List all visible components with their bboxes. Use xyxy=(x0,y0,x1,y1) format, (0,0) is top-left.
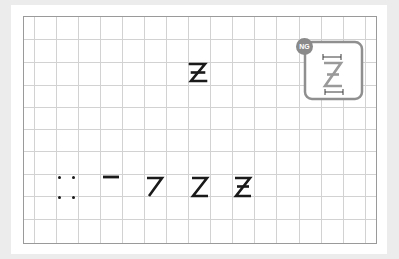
model-glyph-crossed-z xyxy=(190,64,206,81)
ng-example xyxy=(305,42,362,99)
handwriting-grid xyxy=(0,0,399,259)
stroke-step-1-dots xyxy=(58,176,75,199)
ng-badge: NG xyxy=(296,38,313,55)
stroke-step-3-seven xyxy=(147,178,162,196)
stroke-step-5-crossed-z xyxy=(235,178,251,196)
stroke-step-4-z xyxy=(192,178,208,196)
ng-frame xyxy=(305,42,362,99)
